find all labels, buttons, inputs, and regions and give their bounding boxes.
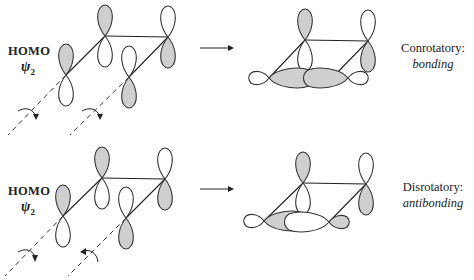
result-label-bonding: bonding <box>392 56 474 72</box>
bond <box>305 40 368 41</box>
right-arrow-icon <box>200 45 234 51</box>
rotation-axis-c1 <box>5 216 63 276</box>
result-text: antibonding <box>403 196 463 210</box>
rotation-axis-c4 <box>68 218 126 276</box>
curved-rotation-arrow-icon <box>82 109 103 120</box>
psi-subscript: 2 <box>30 207 35 217</box>
sigma-orbital-c4 <box>285 212 350 232</box>
p-orbital-c4 <box>122 46 137 108</box>
rotation-axis-c1 <box>8 75 66 135</box>
right-arrow-icon <box>200 186 234 192</box>
bond-c2-c3 <box>102 178 165 179</box>
result-text: bonding <box>413 57 454 71</box>
sigma-orbital-c4 <box>304 68 369 88</box>
homo-label: HOMO <box>8 183 48 199</box>
mode-label-conrotatory: Conrotatory: <box>392 40 474 56</box>
p-orbital-c4 <box>119 187 134 249</box>
rotation-axis-c4 <box>70 77 129 135</box>
disrotatory-product <box>244 152 374 232</box>
result-label-antibonding: antibonding <box>392 195 474 211</box>
mode-label-disrotatory: Disrotatory: <box>392 179 474 195</box>
psi-subscript: 2 <box>30 67 35 77</box>
p-orbital-c1 <box>59 44 74 106</box>
homo-label: HOMO <box>8 43 48 59</box>
curved-rotation-arrow-icon <box>80 248 98 262</box>
p-orbital-c1 <box>56 185 71 247</box>
bond-c2-c3 <box>105 36 168 37</box>
psi2-label: ψ2 <box>8 199 48 220</box>
conrotatory-product <box>249 9 376 88</box>
bond <box>303 183 366 184</box>
psi2-label: ψ2 <box>8 59 48 80</box>
